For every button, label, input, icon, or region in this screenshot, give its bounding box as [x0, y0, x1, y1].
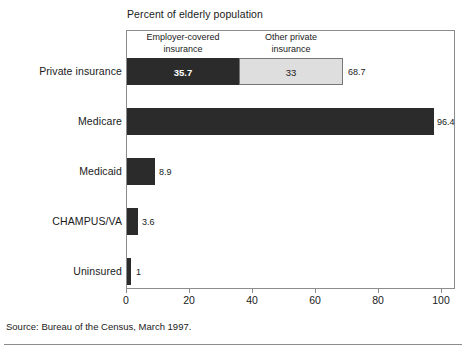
x-axis-line [126, 288, 455, 289]
bar-total-uninsured: 1 [136, 267, 141, 277]
bottom-divider [4, 344, 462, 345]
x-axis-tick-100 [441, 289, 442, 293]
legend-item-label-line1: Other private [240, 32, 342, 44]
x-axis-tick-80 [378, 289, 379, 293]
category-label-medicaid: Medicaid [79, 165, 122, 177]
chart-title: Percent of elderly population [127, 8, 263, 20]
x-axis-tick-40 [252, 289, 253, 293]
x-axis-tick-label-60: 60 [309, 294, 321, 306]
bar-segment-champus-va [127, 208, 138, 235]
bar-total-medicare: 96.4 [437, 117, 455, 127]
bar-total-champus-va: 3.6 [142, 217, 155, 227]
category-label-medicare: Medicare [78, 115, 122, 127]
bar-segment-private-insurance-other-private: 33 [239, 58, 343, 85]
legend-item-label-line2: insurance [126, 44, 240, 56]
source-note: Source: Bureau of the Census, March 1997… [6, 321, 191, 332]
chart-page: Percent of elderly population Employer-c… [0, 0, 466, 353]
category-label-uninsured: Uninsured [73, 265, 122, 277]
category-label-champus-va: CHAMPUS/VA [52, 215, 122, 227]
x-axis-tick-0 [126, 289, 127, 293]
legend-item-label-line1: Employer-covered [126, 32, 240, 44]
chart-legend: Employer-covered insurance Other private… [126, 32, 455, 58]
bar-segment-uninsured [127, 258, 131, 285]
x-axis-tick-label-80: 80 [372, 294, 384, 306]
x-axis-tick-label-100: 100 [432, 294, 450, 306]
x-axis-tick-label-40: 40 [246, 294, 258, 306]
x-axis-tick-20 [189, 289, 190, 293]
bar-total-medicaid: 8.9 [159, 167, 172, 177]
legend-item-other-private-insurance: Other private insurance [240, 32, 342, 55]
bar-segment-medicaid [127, 158, 155, 185]
bar-value-private-insurance-other-private: 33 [240, 67, 342, 78]
x-axis-tick-label-0: 0 [123, 294, 129, 306]
bar-value-private-insurance-employer-covered: 35.7 [127, 67, 239, 78]
x-axis-tick-label-20: 20 [183, 294, 195, 306]
x-axis-tick-60 [315, 289, 316, 293]
bar-segment-medicare [127, 108, 434, 135]
bar-segment-private-insurance-employer-covered: 35.7 [127, 58, 239, 85]
legend-item-label-line2: insurance [240, 44, 342, 56]
bar-total-private-insurance: 68.7 [348, 67, 366, 77]
category-label-private-insurance: Private insurance [39, 65, 122, 77]
legend-item-employer-covered-insurance: Employer-covered insurance [126, 32, 240, 55]
